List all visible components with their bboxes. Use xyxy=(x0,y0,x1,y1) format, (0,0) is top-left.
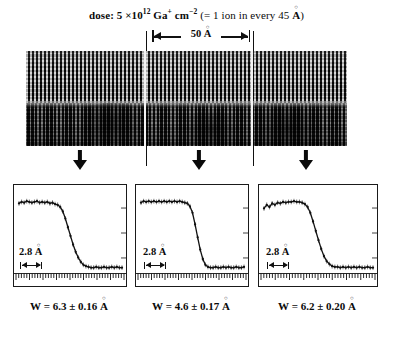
spacing-arrowhead-right-icon xyxy=(36,262,41,268)
angstrom-symbol-scalebar: ○A xyxy=(204,28,212,39)
arrow-head-down-icon xyxy=(299,160,313,170)
dose-unit: cm xyxy=(175,9,189,21)
dose-exponent: 12 xyxy=(143,7,151,16)
angstrom-symbol-plot-1: ○A xyxy=(35,246,43,257)
scale-bar-cap-right xyxy=(249,30,251,42)
profile-plot-2-svg xyxy=(136,185,248,286)
spacing-marker-cap-right xyxy=(288,262,289,269)
angstrom-ring-icon: ○ xyxy=(224,295,228,301)
spacing-arrowhead-left-icon xyxy=(269,262,274,268)
scale-bar-value: 50 xyxy=(191,28,202,39)
spacing-value: 2.8 xyxy=(266,246,279,257)
profile-plot-2 xyxy=(135,184,249,287)
arrow-region-2 xyxy=(192,150,206,170)
spacing-marker-cap-right xyxy=(165,262,166,269)
spacing-label-3: 2.8 ○A xyxy=(266,246,289,257)
arrow-row xyxy=(0,150,393,172)
width-label-1: W = 6.3 ± 0.16 ○A xyxy=(13,300,125,316)
spacing-arrowhead-left-icon xyxy=(22,262,27,268)
profile-plot-3-svg xyxy=(259,185,377,286)
spacing-value: 2.8 xyxy=(19,246,32,257)
angstrom-symbol-w-1: ○A xyxy=(100,300,108,312)
arrow-head-down-icon xyxy=(73,160,87,170)
angstrom-letter: A xyxy=(159,246,167,257)
spacing-arrowhead-right-icon xyxy=(160,262,165,268)
angstrom-ring-icon: ○ xyxy=(294,4,298,10)
width-label-3: W = 6.2 ± 0.20 ○A xyxy=(258,300,376,316)
angstrom-ring-icon: ○ xyxy=(284,242,288,248)
plot-1-points xyxy=(18,199,123,270)
dose-species: Ga xyxy=(153,9,167,21)
angstrom-symbol-w-3: ○A xyxy=(348,300,356,312)
angstrom-symbol-plot-2: ○A xyxy=(159,246,167,257)
angstrom-letter: A xyxy=(35,246,43,257)
spacing-label-1: 2.8 ○A xyxy=(19,246,42,257)
width-label-2: W = 4.6 ± 0.17 ○A xyxy=(135,300,247,316)
angstrom-letter: A xyxy=(204,28,212,39)
scale-bar-label: 50 ○A xyxy=(181,28,221,39)
dose-paren-close: ) xyxy=(300,9,304,21)
dose-species-charge: + xyxy=(168,7,172,16)
profile-plot-3 xyxy=(258,184,378,287)
width-value: W = 4.6 ± 0.17 xyxy=(152,300,222,312)
spacing-marker-3 xyxy=(267,262,289,269)
plot-3-points xyxy=(263,199,374,270)
angstrom-symbol-caption: ○A xyxy=(292,9,300,21)
dose-paren-open: (= 1 ion in every 45 xyxy=(200,9,292,21)
angstrom-ring-icon: ○ xyxy=(37,242,41,248)
angstrom-letter: A xyxy=(222,300,230,312)
profile-plot-1 xyxy=(13,184,127,287)
arrow-region-1 xyxy=(73,150,87,170)
spacing-marker-cap-right xyxy=(41,262,42,269)
tem-micrograph xyxy=(26,51,347,146)
tem-region-seam-left xyxy=(144,51,146,146)
angstrom-letter: A xyxy=(348,300,356,312)
figure-root: dose: 5 ×1012 Ga+ cm−2 (= 1 ion in every… xyxy=(0,0,393,337)
width-value: W = 6.3 ± 0.16 xyxy=(30,300,100,312)
scale-bar-arrowhead-right-icon xyxy=(241,32,248,40)
angstrom-letter: A xyxy=(282,246,290,257)
width-value: W = 6.2 ± 0.20 xyxy=(278,300,348,312)
dose-prefix: dose: 5 ×10 xyxy=(89,9,143,21)
angstrom-letter: A xyxy=(100,300,108,312)
angstrom-ring-icon: ○ xyxy=(350,295,354,301)
angstrom-symbol-plot-3: ○A xyxy=(282,246,290,257)
dose-caption: dose: 5 ×1012 Ga+ cm−2 (= 1 ion in every… xyxy=(0,7,393,21)
tem-vignette xyxy=(26,51,347,146)
angstrom-symbol-w-2: ○A xyxy=(222,300,230,312)
spacing-arrowhead-left-icon xyxy=(146,262,151,268)
spacing-marker-2 xyxy=(144,262,166,269)
tem-region-seam-right xyxy=(251,51,253,146)
spacing-label-2: 2.8 ○A xyxy=(143,246,166,257)
scale-bar-arrowhead-left-icon xyxy=(154,32,161,40)
angstrom-letter: A xyxy=(292,9,300,21)
angstrom-ring-icon: ○ xyxy=(161,242,165,248)
spacing-value: 2.8 xyxy=(143,246,156,257)
plot-3-curve xyxy=(264,201,373,267)
angstrom-ring-icon: ○ xyxy=(102,295,106,301)
profile-plot-1-svg xyxy=(14,185,126,286)
plot-2-points xyxy=(140,199,245,270)
dose-unit-exponent: −2 xyxy=(189,7,197,16)
spacing-marker-1 xyxy=(20,262,42,269)
arrow-region-3 xyxy=(299,150,313,170)
angstrom-ring-icon: ○ xyxy=(206,24,210,30)
arrow-head-down-icon xyxy=(192,160,206,170)
spacing-arrowhead-right-icon xyxy=(283,262,288,268)
scale-bar: 50 ○A xyxy=(152,29,250,44)
